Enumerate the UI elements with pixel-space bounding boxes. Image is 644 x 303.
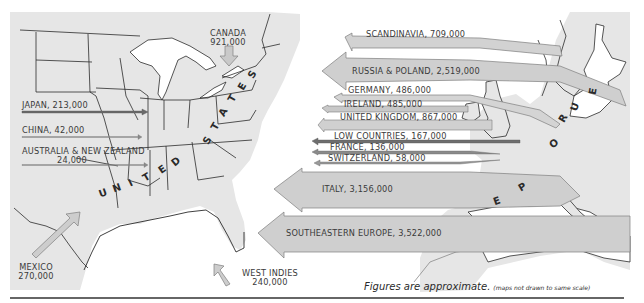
label-southeastern-europe: SOUTHEASTERN EUROPE, 3,522,000 <box>286 228 442 238</box>
arrow-italy <box>274 168 580 212</box>
bottom-rule <box>10 297 624 299</box>
value-mexico: 270,000 <box>18 271 53 281</box>
note-sub: (maps not drawn to same scale) <box>493 284 590 291</box>
approximation-note: Figures are approximate.(maps not drawn … <box>364 276 590 294</box>
label-scandinavia: SCANDINAVIA, 709,000 <box>366 29 465 39</box>
label-italy: ITALY, 3,156,000 <box>322 184 393 194</box>
value-australia-nz: 24,000 <box>57 155 87 165</box>
label-china: CHINA, 42,000 <box>22 125 84 135</box>
arrow-west-indies <box>214 264 230 286</box>
label-russia-poland: RUSSIA & POLAND, 2,519,000 <box>352 66 480 76</box>
label-low-countries: LOW COUNTRIES, 167,000 <box>334 131 447 141</box>
label-japan: JAPAN, 213,000 <box>21 100 88 110</box>
label-germany: GERMANY, 486,000 <box>348 85 431 95</box>
label-ireland: IRELAND, 485,000 <box>344 99 422 109</box>
label-united-kingdom: UNITED KINGDOM, 867,000 <box>340 112 457 122</box>
label-switzerland: SWITZERLAND, 58,000 <box>328 153 426 163</box>
label-france: FRANCE, 136,000 <box>330 142 405 152</box>
value-canada: 921,000 <box>210 37 245 47</box>
note-main: Figures are approximate. <box>364 281 490 292</box>
value-west-indies: 240,000 <box>252 277 287 287</box>
immigration-map: CANADA 921,000 JAPAN, 213,000 CHINA, 42,… <box>0 0 644 303</box>
